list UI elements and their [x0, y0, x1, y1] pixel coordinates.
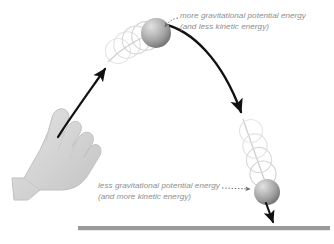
apex-energy-label: more gravitational potential energy (and… — [180, 11, 306, 32]
throwing-hand — [12, 109, 101, 200]
descent-label-line-2: (and more kinetic energy) — [98, 192, 220, 203]
ghost-trail-descending — [240, 120, 277, 188]
apex-ball — [141, 18, 171, 48]
projectile-energy-diagram: more gravitational potential energy (and… — [0, 0, 334, 244]
apex-label-line-1: more gravitational potential energy — [180, 11, 306, 22]
trajectory-arc — [163, 24, 241, 112]
ground-line — [78, 226, 330, 230]
descent-ball — [254, 179, 280, 205]
downward-velocity-arrow — [266, 203, 273, 222]
diagram-canvas — [0, 0, 334, 244]
descent-label-line-1: less gravitational potential energy — [98, 181, 220, 192]
descent-energy-label: less gravitational potential energy (and… — [98, 181, 220, 202]
apex-label-line-2: (and less kinetic energy) — [180, 22, 306, 33]
descent-label-pointer — [222, 188, 250, 189]
